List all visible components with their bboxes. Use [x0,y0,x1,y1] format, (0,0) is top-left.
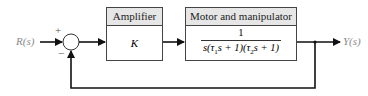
fraction-bar [201,40,281,41]
signal-lines [0,0,368,96]
summing-junction [63,34,79,50]
plant-transfer-function: 1 s(τ1s + 1)(τ2s + 1) [201,27,281,58]
plus-sign: + [55,24,61,36]
tf-numerator: 1 [234,27,247,39]
output-label: Y(s) [343,35,361,47]
amplifier-title: Amplifier [107,8,162,26]
amplifier-block: Amplifier K [106,7,163,61]
tf-denominator: s(τ1s + 1)(τ2s + 1) [201,42,281,58]
amplifier-gain: K [131,37,138,49]
input-label: R(s) [16,35,34,47]
motor-manipulator-title: Motor and manipulator [186,8,296,26]
minus-sign: − [58,47,64,59]
motor-manipulator-block: Motor and manipulator 1 s(τ1s + 1)(τ2s +… [185,7,297,61]
